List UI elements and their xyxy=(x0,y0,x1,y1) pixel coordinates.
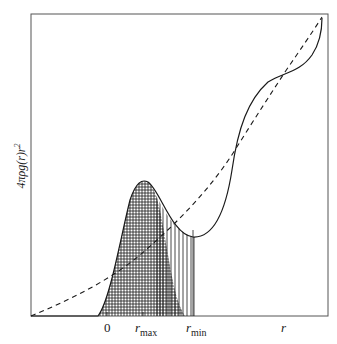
x-tick-label-zero: 0 xyxy=(104,320,111,336)
plot-frame xyxy=(31,14,328,316)
dashed-reference-curve xyxy=(31,17,322,316)
x-tick-zero-text: 0 xyxy=(104,320,111,335)
x-tick-rmax-sub: max xyxy=(140,327,157,338)
y-label-pi: π xyxy=(14,177,28,183)
y-label-body: ρg(r)r xyxy=(14,147,28,176)
x-tick-label-rmin: rmin xyxy=(186,320,207,338)
vertical-hatch-region xyxy=(157,180,194,316)
solid-rdf-curve xyxy=(31,18,322,316)
y-label-exponent: 2 xyxy=(13,143,22,147)
x-axis-r-text: r xyxy=(281,320,286,335)
y-axis-label: 4πρg(r)r2 xyxy=(13,121,29,211)
y-label-prefix: 4 xyxy=(14,183,28,189)
rdf-diagram xyxy=(0,0,337,344)
x-axis-label-r: r xyxy=(281,320,286,336)
x-tick-rmin-sub: min xyxy=(191,327,207,338)
crosshatch-region xyxy=(95,170,190,316)
x-tick-label-rmax: rmax xyxy=(135,320,157,338)
